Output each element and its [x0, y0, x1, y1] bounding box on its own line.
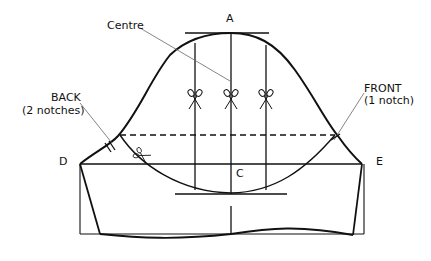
sleeve-cap-curve: [80, 33, 362, 164]
hem-curve: [100, 228, 353, 237]
label-centre: Centre: [107, 20, 144, 32]
label-c: C: [236, 168, 244, 180]
back-leader: [80, 103, 112, 143]
label-back-title: BACK: [51, 92, 81, 104]
scissors-icon: [131, 146, 152, 166]
label-front-sub: (1 notch): [364, 95, 414, 107]
label-e: E: [376, 156, 383, 168]
label-a: A: [226, 13, 234, 25]
centre-leader: [140, 28, 230, 81]
label-back-sub: (2 notches): [22, 105, 85, 117]
front-leader: [334, 93, 364, 140]
sleeve-pattern-drawing: [0, 0, 431, 261]
left-sleeve-side: [80, 164, 100, 234]
right-sleeve-side: [353, 164, 362, 235]
label-d: D: [59, 156, 67, 168]
